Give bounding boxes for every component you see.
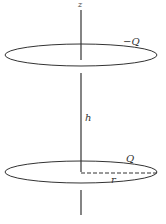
separation-label: h: [85, 113, 91, 123]
bottom-ring-charge-label: Q: [126, 154, 134, 164]
diagram-canvas: [0, 0, 166, 224]
top-ring-charge-label: −Q: [123, 37, 140, 47]
z-axis-label: z: [78, 1, 82, 9]
radius-label: r: [111, 175, 116, 185]
